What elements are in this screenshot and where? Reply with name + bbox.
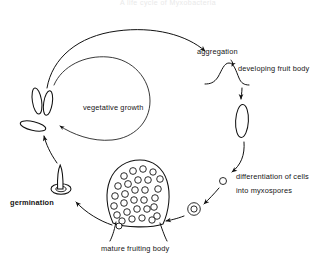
germinating-myxospore	[51, 165, 71, 194]
arrow-vegetative-to-aggregation	[47, 30, 205, 88]
label-germination: germination	[10, 198, 54, 208]
vegetative-growth-loop	[54, 57, 150, 141]
elongating-fruit-body	[235, 104, 250, 138]
life-cycle-diagram: A life cycle of Myxobacteria	[0, 0, 336, 263]
mature-fruiting-body	[107, 160, 169, 241]
arrow-elongating-to-differentiation	[232, 142, 244, 172]
label-aggregation: aggregation	[197, 47, 238, 57]
vegetative-rod-cells	[19, 87, 54, 133]
label-differentiation-line1: differentiation of cells	[236, 172, 309, 182]
arrow-developing-to-elongating	[241, 88, 242, 99]
differentiation-small-circle	[220, 178, 227, 185]
label-mature-fruiting-body: mature fruiting body	[101, 244, 169, 254]
arrow-differentiation-to-myxospore	[204, 188, 219, 204]
life-cycle-illustration	[0, 0, 336, 263]
label-differentiation-line2: into myxospores	[236, 186, 292, 196]
arrow-germination-to-vegetative	[44, 136, 57, 163]
label-vegetative-growth: vegetative growth	[83, 103, 143, 113]
label-developing-fruit-body: developing fruit body	[238, 64, 309, 74]
arrow-myxospore-to-fruiting-body	[166, 216, 184, 221]
arrow-fruiting-body-to-germination	[76, 202, 112, 225]
myxospore-double-ring	[188, 203, 201, 216]
